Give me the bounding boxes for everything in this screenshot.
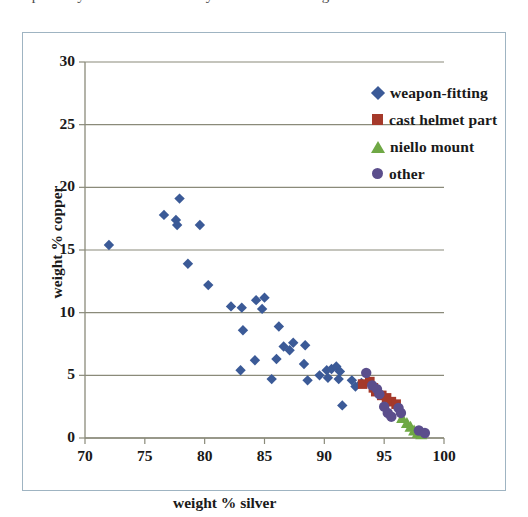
legend-item-cast-helmet-part[interactable]: cast helmet part <box>371 106 523 133</box>
legend-item-niello-mount[interactable]: niello mount <box>371 133 523 160</box>
x-tick-label-75: 75 <box>131 447 159 465</box>
x-tick-label-70: 70 <box>71 447 99 465</box>
data-point-weapon-fitting-13 <box>238 325 248 335</box>
legend-item-weapon-fitting[interactable]: weapon-fitting <box>371 79 523 106</box>
data-point-other-8 <box>396 408 406 418</box>
data-point-weapon-fitting-10 <box>251 295 261 305</box>
legend-label: niello mount <box>390 138 474 156</box>
data-point-other-10 <box>420 428 430 438</box>
square-marker-icon <box>372 114 383 125</box>
diamond-marker-icon <box>371 85 385 99</box>
y-tick-label-5: 5 <box>45 365 75 383</box>
data-point-weapon-fitting-2 <box>174 193 184 203</box>
data-point-weapon-fitting-11 <box>259 292 269 302</box>
y-axis-title: weight % copper <box>48 172 66 312</box>
y-tick-label-0: 0 <box>45 428 75 446</box>
data-points-group <box>104 193 430 439</box>
data-point-weapon-fitting-7 <box>203 280 213 290</box>
x-axis-title: weight % silver <box>173 494 276 512</box>
data-point-weapon-fitting-21 <box>271 354 281 364</box>
legend-label: cast helmet part <box>389 111 497 129</box>
data-point-weapon-fitting-6 <box>183 259 193 269</box>
data-point-weapon-fitting-9 <box>237 302 247 312</box>
data-point-weapon-fitting-20 <box>300 340 310 350</box>
data-point-weapon-fitting-32 <box>337 400 347 410</box>
page-top-text-sliver: the partially visible line of body text … <box>0 0 528 14</box>
y-tick-label-30: 30 <box>45 52 75 70</box>
data-point-weapon-fitting-5 <box>195 220 205 230</box>
chart-legend: weapon-fittingcast helmet partniello mou… <box>371 79 523 187</box>
x-tick-label-80: 80 <box>191 447 219 465</box>
chart-figure-frame: 707580859095100 051015202530 weight % si… <box>22 32 506 491</box>
page-top-text: the partially visible line of body text … <box>8 0 350 4</box>
data-point-weapon-fitting-8 <box>226 301 236 311</box>
data-point-other-6 <box>386 411 396 421</box>
x-tick-label-100: 100 <box>430 447 458 465</box>
data-point-other-0 <box>361 368 371 378</box>
data-point-weapon-fitting-1 <box>159 210 169 220</box>
data-point-weapon-fitting-14 <box>235 365 245 375</box>
data-point-weapon-fitting-24 <box>302 375 312 385</box>
circle-marker-icon <box>372 168 383 179</box>
data-point-weapon-fitting-15 <box>250 355 260 365</box>
triangle-marker-icon <box>371 141 385 153</box>
legend-label: weapon-fitting <box>390 84 488 102</box>
x-tick-label-95: 95 <box>370 447 398 465</box>
data-point-other-3 <box>374 389 384 399</box>
data-point-weapon-fitting-0 <box>104 240 114 250</box>
data-point-weapon-fitting-16 <box>274 321 284 331</box>
data-point-weapon-fitting-23 <box>299 359 309 369</box>
x-tick-label-85: 85 <box>251 447 279 465</box>
legend-item-other[interactable]: other <box>371 160 523 187</box>
x-tick-label-90: 90 <box>310 447 338 465</box>
y-tick-label-25: 25 <box>45 115 75 133</box>
legend-label: other <box>389 165 425 183</box>
